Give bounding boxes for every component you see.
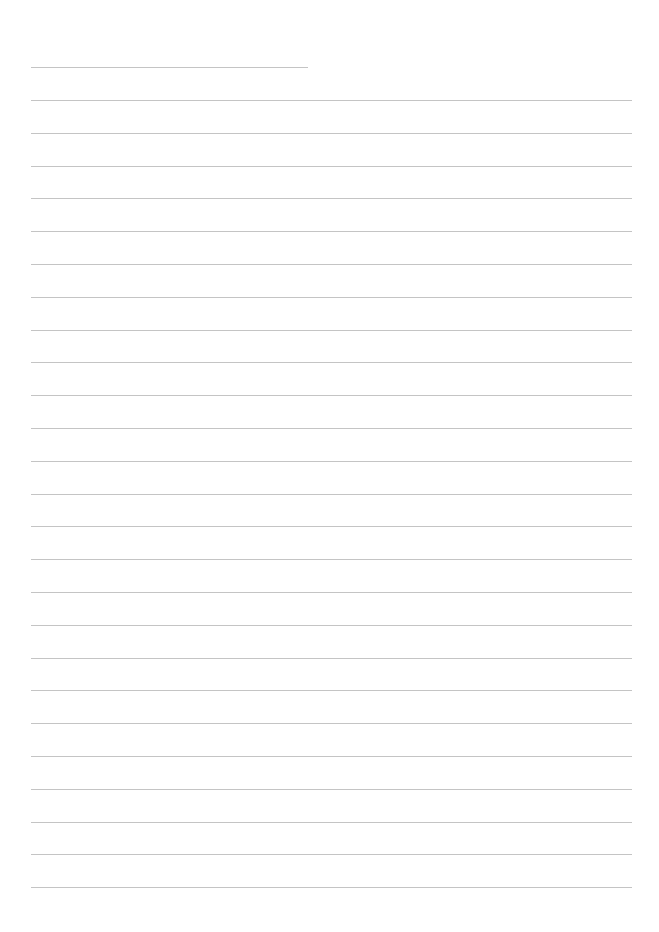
lined-paper-sheet bbox=[0, 0, 659, 932]
writing-line bbox=[31, 625, 632, 626]
writing-line bbox=[31, 658, 632, 659]
writing-line bbox=[31, 166, 632, 167]
title-line bbox=[31, 67, 308, 68]
writing-line bbox=[31, 133, 632, 134]
writing-line bbox=[31, 822, 632, 823]
writing-line bbox=[31, 198, 632, 199]
writing-line bbox=[31, 559, 632, 560]
writing-line bbox=[31, 690, 632, 691]
writing-line bbox=[31, 264, 632, 265]
writing-line bbox=[31, 428, 632, 429]
writing-line bbox=[31, 461, 632, 462]
writing-line bbox=[31, 100, 632, 101]
writing-line bbox=[31, 231, 632, 232]
writing-line bbox=[31, 887, 632, 888]
writing-line bbox=[31, 494, 632, 495]
writing-line bbox=[31, 297, 632, 298]
writing-line bbox=[31, 362, 632, 363]
writing-line bbox=[31, 330, 632, 331]
writing-line bbox=[31, 854, 632, 855]
writing-line bbox=[31, 526, 632, 527]
writing-line bbox=[31, 592, 632, 593]
writing-line bbox=[31, 789, 632, 790]
writing-line bbox=[31, 723, 632, 724]
writing-line bbox=[31, 395, 632, 396]
writing-line bbox=[31, 756, 632, 757]
